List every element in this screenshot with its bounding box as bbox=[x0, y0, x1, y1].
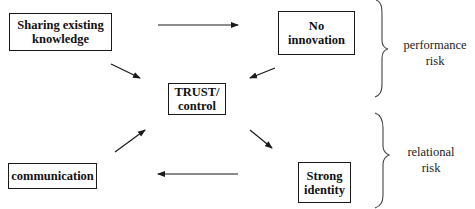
arrow-trust-to-strong-identity bbox=[250, 130, 272, 148]
node-communication: communication bbox=[8, 163, 97, 189]
diagram-canvas: Sharing existing knowledge No innovation… bbox=[0, 0, 475, 209]
label-performance-risk: performance risk bbox=[396, 37, 474, 69]
brace-performance-risk bbox=[375, 0, 388, 97]
label-relational-risk: relational risk bbox=[396, 144, 466, 176]
arrow-sharing-to-trust bbox=[111, 64, 140, 78]
node-no-innovation: No innovation bbox=[278, 11, 355, 55]
brace-relational-risk bbox=[375, 113, 389, 208]
node-trust-control: TRUST/ control bbox=[168, 83, 226, 115]
arrow-communication-to-trust bbox=[115, 130, 145, 152]
node-sharing-existing-knowledge: Sharing existing knowledge bbox=[9, 13, 112, 51]
node-strong-identity: Strong identity bbox=[298, 162, 351, 203]
arrow-no-innovation-to-trust bbox=[250, 68, 275, 78]
